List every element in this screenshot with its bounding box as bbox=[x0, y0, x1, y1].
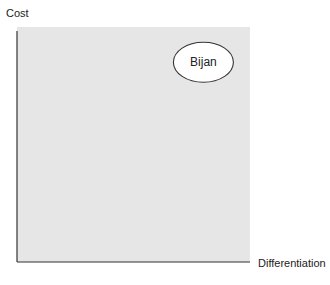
x-axis-label: Differentiation bbox=[258, 257, 326, 269]
positioning-diagram: Cost Differentiation Bijan bbox=[0, 0, 330, 285]
y-axis-label: Cost bbox=[6, 7, 29, 19]
points-layer: Bijan bbox=[173, 42, 233, 82]
node-label: Bijan bbox=[190, 55, 217, 69]
